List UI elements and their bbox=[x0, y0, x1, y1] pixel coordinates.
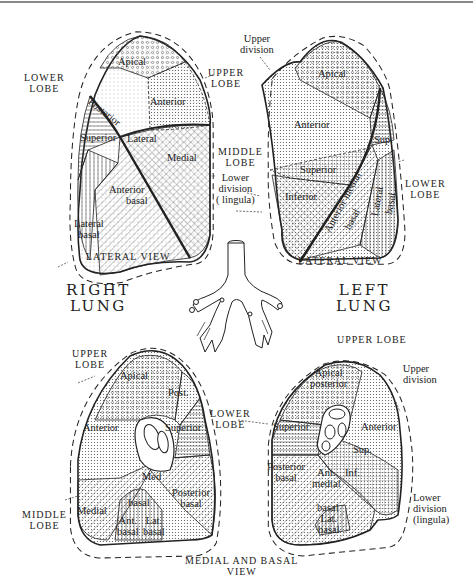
right-lung-heading-line1: RIGHT bbox=[66, 282, 131, 298]
right-lateral-view-caption: LATERAL VIEW bbox=[86, 251, 171, 262]
segment-posterior-basal: Posterior basal bbox=[172, 487, 210, 509]
lobe-label-line: LOBE bbox=[24, 83, 65, 94]
lobe-label-line: UPPER bbox=[72, 348, 108, 359]
segment-lat-basal: Lat. basal bbox=[143, 515, 165, 537]
segment-medial: Medial bbox=[167, 152, 197, 163]
lobe-label-line: MIDDLE bbox=[22, 509, 67, 520]
segment-superior: Superior bbox=[80, 132, 116, 143]
right-medial-upper-lobe-label: UPPER LOBE bbox=[72, 348, 108, 370]
middle-lobe-label: MIDDLE LOBE bbox=[218, 146, 263, 168]
segment-label-line: Ant. bbox=[312, 467, 341, 478]
segment-medial-basal: basal bbox=[128, 497, 150, 508]
bronchial-tree bbox=[190, 241, 283, 353]
segment-basal: basal bbox=[317, 502, 339, 513]
segment-medial: Medial bbox=[77, 505, 107, 516]
segment-label-line: basal bbox=[143, 526, 165, 537]
left-lateral-lower-lobe-label: LOWER LOBE bbox=[405, 178, 446, 200]
segment-superior: Superior bbox=[273, 421, 309, 432]
lobe-label-line: division bbox=[413, 503, 449, 514]
lobe-label-line: Lower bbox=[413, 492, 449, 503]
caption-line: MEDIAL AND BASAL bbox=[185, 555, 298, 566]
left-lateral-lower-division-label: Lower division ( lingula) bbox=[216, 172, 255, 205]
segment-label-line: Lateral bbox=[74, 218, 104, 229]
segment-lat-basal: Lat. basal bbox=[318, 513, 340, 535]
caption-line: VIEW bbox=[185, 566, 298, 577]
lobe-label-line: LOWER bbox=[210, 408, 251, 419]
right-lung-heading: RIGHT LUNG bbox=[66, 282, 131, 314]
left-lung-heading-line1: LEFT bbox=[336, 282, 393, 298]
lobe-label-line: LOWER bbox=[24, 72, 65, 83]
lobe-label-line: Lower bbox=[216, 172, 255, 183]
left-medial-upper-lobe-label: UPPER LOBE bbox=[337, 334, 407, 345]
lobe-label-line: LOWER bbox=[405, 178, 446, 189]
segment-anterior: Anterior bbox=[294, 119, 330, 130]
lobe-label-line: LOBE bbox=[208, 78, 244, 89]
segment-label-line: basal bbox=[267, 472, 305, 483]
left-lung-heading-line2: LUNG bbox=[336, 298, 393, 314]
lobe-label-line: division bbox=[216, 183, 255, 194]
segment-lateral: Lateral bbox=[127, 133, 157, 144]
lobe-label-line: LOBE bbox=[72, 359, 108, 370]
segment-label-line: Apical bbox=[310, 367, 347, 378]
left-medial-lower-lobe-label: LOWER LOBE bbox=[210, 408, 251, 430]
right-lateral-lower-lobe-label: LOWER LOBE bbox=[24, 72, 65, 94]
left-medial-basal-view bbox=[268, 361, 412, 556]
segment-label-line: Lat. bbox=[143, 515, 165, 526]
segment-apical: Apical bbox=[318, 68, 346, 79]
medial-basal-view-caption: MEDIAL AND BASAL VIEW bbox=[185, 555, 298, 577]
segment-med: Med bbox=[142, 471, 161, 482]
segment-anterior: Anterior bbox=[83, 422, 119, 433]
segment-apical-posterior: Apical posterior bbox=[310, 367, 347, 389]
segment-label-line: posterior bbox=[310, 378, 347, 389]
lobe-label-line: LOBE bbox=[22, 520, 67, 531]
segment-superior: Superior bbox=[300, 164, 336, 175]
segment-lateral-basal: Lateral basal bbox=[74, 218, 104, 240]
segment-label-line: Posterior bbox=[267, 461, 305, 472]
right-lateral-upper-lobe-label: UPPER LOBE bbox=[208, 67, 244, 89]
lobe-label-line: Upper bbox=[240, 33, 274, 44]
right-medial-middle-lobe-label: MIDDLE LOBE bbox=[22, 509, 67, 531]
segment-anterior-basal: Anterior basal bbox=[106, 184, 148, 206]
left-lateral-view-caption: LATERAL VIEW bbox=[298, 255, 383, 266]
lobe-label-line: (lingula) bbox=[413, 514, 449, 525]
segment-label-line: basal bbox=[117, 526, 139, 537]
lobe-label-line: Upper bbox=[395, 363, 437, 374]
segment-label-line: basal bbox=[318, 524, 340, 535]
lobe-label-line: MIDDLE bbox=[218, 146, 263, 157]
lobe-label-line: LOBE bbox=[405, 189, 446, 200]
lobe-label-line: ( lingula) bbox=[216, 194, 255, 205]
lobe-label-line: UPPER bbox=[208, 67, 244, 78]
segment-inf: Inf. bbox=[345, 467, 360, 478]
left-lung-heading: LEFT LUNG bbox=[336, 282, 393, 314]
segment-superior: Superior bbox=[165, 422, 201, 433]
segment-posterior-basal: Posterior basal bbox=[267, 461, 305, 483]
segment-post: Post. bbox=[168, 387, 189, 398]
segment-apical: Apical bbox=[120, 370, 148, 381]
lobe-label-line: division bbox=[395, 374, 437, 385]
segment-label-line: Posterior bbox=[172, 487, 210, 498]
left-medial-lower-division-label: Lower division (lingula) bbox=[413, 492, 449, 525]
segment-anterior: Anterior bbox=[361, 421, 397, 432]
segment-label-line: basal bbox=[74, 229, 104, 240]
left-medial-upper-division-label: Upper division bbox=[395, 363, 437, 385]
segment-label-line: basal bbox=[106, 195, 148, 206]
segment-ant-medial: Ant. medial bbox=[312, 467, 341, 489]
right-lung-heading-line2: LUNG bbox=[66, 298, 131, 314]
lobe-label-line: division bbox=[240, 44, 274, 55]
segment-label-line: Ant. bbox=[117, 515, 139, 526]
lobe-label-line: LOBE bbox=[218, 157, 263, 168]
segment-ant-basal: Ant. basal bbox=[117, 515, 139, 537]
segment-label-line: Lat. bbox=[318, 513, 340, 524]
lobe-label-line: LOBE bbox=[210, 419, 251, 430]
segment-inferior: Inferior bbox=[285, 191, 317, 202]
segment-label-line: basal bbox=[172, 498, 210, 509]
left-lateral-upper-division-label: Upper division bbox=[240, 33, 274, 55]
segment-label-line: medial bbox=[312, 478, 341, 489]
segment-label-line: Anterior bbox=[106, 184, 148, 195]
segment-apical: Apical bbox=[118, 56, 146, 67]
segment-sup: Sup. bbox=[353, 444, 372, 455]
segment-anterior: Anterior bbox=[150, 96, 186, 107]
segment-sup: Sup. bbox=[374, 134, 393, 145]
